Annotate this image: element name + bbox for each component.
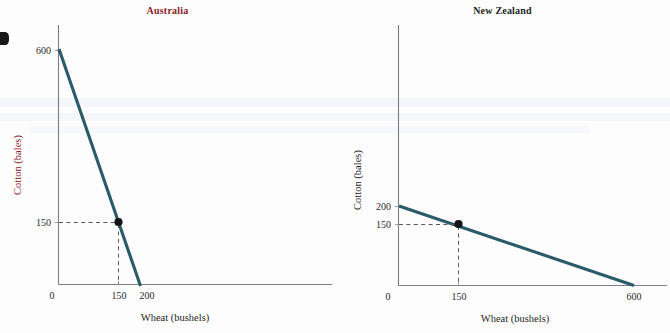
production-point-new-zealand bbox=[454, 220, 462, 228]
x-tick-label-600-new-zealand: 600 bbox=[627, 291, 642, 302]
y-tick-label-150-australia: 150 bbox=[36, 217, 51, 228]
production-point-australia bbox=[114, 218, 122, 226]
x-tick-label-0-australia: 0 bbox=[50, 290, 55, 301]
ppf-line-new-zealand bbox=[399, 206, 634, 286]
x-tick-label-0-new-zealand: 0 bbox=[386, 291, 391, 302]
chart-panel-new-zealand: New Zealand 200 150 0 150 600 bbox=[335, 0, 670, 333]
x-axis-label-australia: Wheat (bushels) bbox=[141, 312, 210, 324]
chart-panel-australia: Australia 600 150 0 150 200 bbox=[0, 0, 335, 333]
y-tick-label-600-australia: 600 bbox=[36, 45, 51, 56]
y-tick-label-200-new-zealand: 200 bbox=[376, 201, 391, 212]
x-tick-label-150-australia: 150 bbox=[112, 290, 127, 301]
figure-canvas: Australia 600 150 0 150 200 bbox=[0, 0, 670, 333]
x-axis-label-new-zealand: Wheat (bushels) bbox=[481, 313, 550, 325]
ppf-line-australia bbox=[59, 49, 141, 286]
x-tick-label-150-new-zealand: 150 bbox=[452, 291, 467, 302]
y-axis-label-australia: Cotton (bales) bbox=[12, 135, 24, 195]
plot-australia: 600 150 0 150 200 Wheat (bushels) Cotton… bbox=[0, 0, 335, 333]
y-tick-label-150-new-zealand: 150 bbox=[376, 219, 391, 230]
x-tick-label-200-australia: 200 bbox=[140, 290, 155, 301]
y-axis-label-new-zealand: Cotton (bales) bbox=[352, 150, 364, 210]
plot-new-zealand: 200 150 0 150 600 Wheat (bushels) Cotton… bbox=[335, 0, 670, 333]
